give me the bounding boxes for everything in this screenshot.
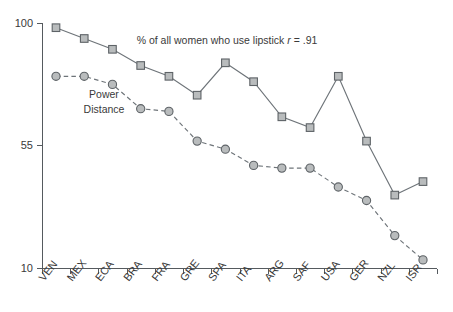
data-point-lipstick-arg [278, 113, 286, 121]
data-point-power-isr [419, 256, 427, 264]
x-axis-label-usa: USA [318, 257, 342, 283]
data-point-lipstick-spa [222, 59, 230, 67]
data-point-power-usa [334, 183, 342, 191]
data-point-power-ita [250, 161, 258, 169]
data-point-power-fra [165, 107, 173, 115]
y-tick-marks [37, 24, 43, 269]
x-axis-label-mex: MEX [64, 257, 89, 284]
chart-container: 100 55 10 VENMEXECABRAFRAGRESPAITAARGSAF… [0, 0, 453, 312]
x-axis-label-eca: ECA [93, 257, 117, 283]
y-tick-label-10: 10 [21, 262, 33, 274]
data-point-lipstick-fra [165, 73, 173, 81]
data-point-lipstick-ita [250, 78, 258, 86]
data-point-power-nzl [391, 232, 399, 240]
lipstick-annotation: % of all women who use lipstick r = .91 [137, 34, 318, 46]
x-axis-label-ven: VEN [36, 258, 59, 283]
data-point-lipstick-mex [80, 35, 88, 43]
data-point-lipstick-ger [363, 137, 371, 145]
power-distance-label-line2: Distance [84, 103, 125, 115]
data-point-power-ger [362, 196, 370, 204]
x-axis-label-saf: SAF [290, 259, 313, 283]
data-point-power-mex [80, 72, 88, 80]
data-point-power-gre [193, 137, 201, 145]
data-point-lipstick-nzl [391, 191, 399, 199]
x-axis-label-gre: GRE [177, 257, 201, 283]
data-point-lipstick-saf [306, 124, 314, 132]
x-axis-category-labels: VENMEXECABRAFRAGRESPAITAARGSAFUSAGERNZLI… [36, 257, 424, 284]
data-point-lipstick-ven [52, 24, 60, 32]
data-point-lipstick-usa [335, 73, 343, 81]
data-point-lipstick-gre [193, 91, 201, 99]
power-distance-label-line1: Power [89, 88, 119, 100]
data-point-lipstick-eca [109, 46, 117, 54]
x-axis-label-arg: ARG [262, 257, 286, 283]
power-distance-markers [52, 72, 427, 264]
data-point-lipstick-isr [419, 178, 427, 186]
data-point-power-saf [306, 164, 314, 172]
x-axis-label-nzl: NZL [375, 259, 397, 283]
y-tick-label-100: 100 [15, 17, 33, 29]
data-point-power-bra [137, 105, 145, 113]
x-axis-label-bra: BRA [121, 257, 145, 283]
x-axis-label-ger: GER [347, 257, 371, 283]
data-point-lipstick-bra [137, 62, 145, 70]
y-tick-label-55: 55 [21, 139, 33, 151]
x-axis-label-spa: SPA [206, 259, 229, 284]
data-point-power-ven [52, 72, 60, 80]
x-axis-label-ita: ITA [234, 262, 254, 283]
data-point-power-arg [278, 164, 286, 172]
line-chart-svg: 100 55 10 VENMEXECABRAFRAGRESPAITAARGSAF… [0, 0, 453, 312]
data-point-power-spa [221, 145, 229, 153]
x-axis-label-fra: FRA [149, 258, 172, 283]
x-axis-label-isr: ISR [403, 261, 424, 283]
